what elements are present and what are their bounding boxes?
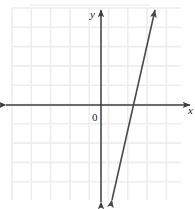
coordinate-plane-figure: y x 0 xyxy=(0,0,195,209)
grid-lines xyxy=(12,8,181,200)
y-axis-label: y xyxy=(89,8,95,20)
graph-svg: y x 0 xyxy=(0,0,195,209)
origin-label: 0 xyxy=(92,111,98,123)
x-axis-label: x xyxy=(187,104,193,116)
